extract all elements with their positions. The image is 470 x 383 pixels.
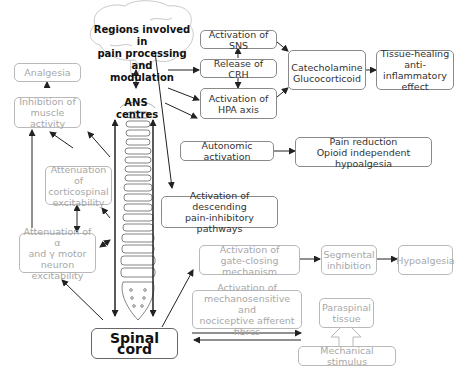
attenuation-corticospinal-node: Attenuation of corticospinal excitabilit…: [45, 166, 112, 205]
autonomic-activation-node: Autonomic activation: [180, 141, 274, 161]
ans-centres-label: ANS centres: [116, 97, 156, 121]
activation-sns-node: Activation of SNS: [200, 30, 277, 49]
hypoalgesia-node: Hypoalgesia: [398, 245, 453, 275]
spine-icon: [120, 102, 155, 320]
release-crh-node: Release of CRH: [200, 59, 277, 78]
catecholamine-text: Catecholamine: [291, 62, 362, 73]
brain-label: Regions involved in pain processing and …: [88, 24, 196, 84]
glucocorticoid-text: Glucocorticoid: [293, 73, 361, 84]
paraspinal-tissue-node: Paraspinal tissue: [319, 298, 374, 328]
activation-hpa-node: Activation of HPA axis: [200, 88, 277, 119]
pain-reduction-node: Pain reduction Opioid independent hypoal…: [295, 137, 432, 167]
tissue-healing-node: Tissue-healing anti-inflammatory effect: [376, 50, 454, 90]
spinal-cord-node: Spinal cord: [91, 328, 178, 359]
descending-pathways-node: Activation of descending pain-inhibitory…: [161, 196, 278, 228]
attenuation-motor-node: Attenuation of α and γ motor neuron exci…: [19, 233, 96, 273]
inhibition-muscle-node: Inhibition of muscle activity: [14, 97, 81, 128]
gate-closing-node: Activation of gate-closing mechanism: [199, 245, 300, 275]
hormones-node: Catecholamine Glucocorticoid: [288, 50, 366, 90]
analgesia-node: Analgesia: [14, 63, 81, 82]
mechanical-stimulus-node: Mechanical stimulus: [298, 346, 396, 366]
afferent-fibres-node: Activation of mechanosensitive and nocic…: [192, 290, 302, 329]
segmental-inhibition-node: Segmental inhibition: [321, 245, 377, 275]
